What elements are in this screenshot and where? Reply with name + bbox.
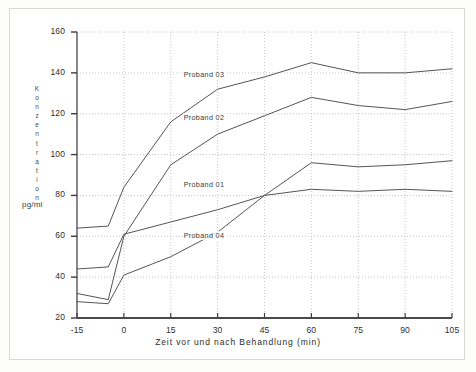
x-tick-label: 0 bbox=[111, 325, 137, 335]
series-label-proband-03: Proband 03 bbox=[183, 70, 226, 79]
line-chart bbox=[0, 0, 476, 372]
y-tick-label: 120 bbox=[39, 108, 65, 118]
series-label-proband-02: Proband 02 bbox=[183, 113, 226, 122]
x-tick-label: 75 bbox=[345, 325, 371, 335]
tick-marks bbox=[71, 32, 452, 318]
chart-page: Konzentration pg/ml Zeit vor und nach Be… bbox=[0, 0, 476, 372]
x-tick-label: 30 bbox=[205, 325, 231, 335]
x-tick-label: 45 bbox=[252, 325, 278, 335]
y-tick-label: 80 bbox=[39, 189, 65, 199]
x-tick-label: 60 bbox=[298, 325, 324, 335]
x-tick-label: 105 bbox=[439, 325, 465, 335]
y-tick-label: 60 bbox=[39, 230, 65, 240]
y-tick-label: 160 bbox=[39, 26, 65, 36]
x-tick-label: 90 bbox=[392, 325, 418, 335]
y-tick-label: 140 bbox=[39, 67, 65, 77]
series-label-proband-01: Proband 01 bbox=[183, 180, 226, 189]
x-tick-label: 15 bbox=[158, 325, 184, 335]
y-tick-label: 20 bbox=[39, 312, 65, 322]
y-tick-label: 40 bbox=[39, 271, 65, 281]
series-label-proband-04: Proband 04 bbox=[183, 231, 226, 240]
y-tick-label: 100 bbox=[39, 149, 65, 159]
x-tick-label: -15 bbox=[64, 325, 90, 335]
